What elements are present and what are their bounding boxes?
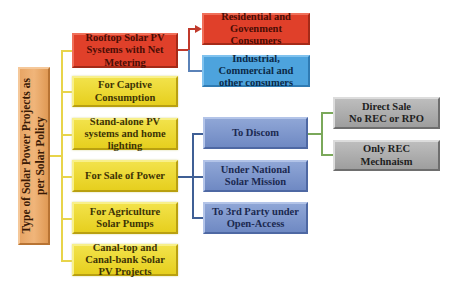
connector-cat-2 — [61, 134, 72, 136]
category-label: Stand-alone PV systems and home lighting — [77, 116, 173, 152]
category-rooftop: Rooftop Solar PV Systems with Net Meteri… — [72, 33, 178, 68]
category-standalone: Stand-alone PV systems and home lighting — [72, 118, 178, 150]
connector-cat-1 — [61, 91, 72, 93]
arrow-icon — [195, 25, 202, 33]
connector-discom-out — [308, 133, 322, 135]
connector-trunk — [61, 50, 63, 261]
category-sale-of-power: For Sale of Power — [72, 160, 178, 192]
connector-cat-0 — [61, 50, 72, 52]
node-label: Residential and Govenment Consumers — [207, 11, 305, 47]
category-label: For Captive Consumption — [77, 79, 173, 103]
node-third-party: To 3rd Party under Open-Access — [203, 202, 308, 234]
node-national-solar-mission: Under National Solar Mission — [203, 160, 308, 192]
category-captive: For Captive Consumption — [72, 76, 178, 107]
category-agriculture: For Agriculture Solar Pumps — [72, 202, 178, 234]
node-label: Under National Solar Mission — [208, 164, 303, 188]
node-label: Only REC Mechnaism — [338, 143, 435, 167]
connector-sale-out — [178, 176, 193, 178]
node-to-discom: To Discom — [203, 117, 308, 149]
category-label: For Agriculture Solar Pumps — [77, 206, 173, 230]
node-label: To 3rd Party under Open-Access — [208, 206, 303, 230]
category-label: For Sale of Power — [85, 170, 165, 182]
node-label: Industrial, Commercial and other consume… — [207, 53, 305, 89]
category-label: Rooftop Solar PV Systems with Net Meteri… — [77, 32, 173, 68]
connector-discom-vertical — [321, 112, 323, 156]
root-label: Type of Solar Power Projects as per Sola… — [20, 78, 48, 233]
root-node: Type of Solar Power Projects as per Sola… — [18, 67, 50, 245]
node-label-line1: Direct Sale — [362, 101, 411, 113]
node-only-rec: Only REC Mechnaism — [333, 140, 440, 171]
connector-discom-1 — [321, 154, 333, 156]
connector-rooftop-down — [188, 50, 190, 72]
category-canal: Canal-top and Canal-bank Solar PV Projec… — [72, 244, 178, 276]
node-residential: Residential and Govenment Consumers — [202, 13, 310, 45]
node-label-line2: No REC or RPO — [349, 113, 424, 125]
connector-cat-4 — [61, 218, 72, 220]
connector-sale-0 — [192, 133, 203, 135]
connector-sale-1 — [192, 176, 203, 178]
category-label: Canal-top and Canal-bank Solar PV Projec… — [77, 242, 173, 278]
root-label-line1: Type of Solar Power Projects as — [20, 78, 34, 233]
node-label: To Discom — [232, 127, 279, 139]
connector-cat-5 — [61, 260, 72, 262]
connector-root — [50, 155, 61, 157]
connector-rooftop-up — [188, 28, 190, 51]
connector-rooftop-ind — [188, 70, 202, 72]
connector-cat-3 — [61, 176, 72, 178]
node-industrial: Industrial, Commercial and other consume… — [202, 55, 310, 87]
connector-discom-0 — [321, 112, 333, 114]
root-label-line2: per Solar Policy — [34, 78, 48, 233]
node-direct-sale: Direct Sale No REC or RPO — [333, 97, 440, 129]
connector-sale-2 — [192, 217, 203, 219]
